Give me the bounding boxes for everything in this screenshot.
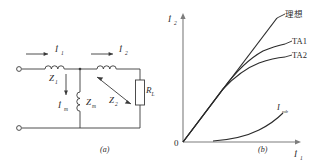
- panel-b-chart: İ 2 İ 1 0 理想 TA1 TA2 I mb: [155, 0, 310, 167]
- label-impedance-zm-sub: m: [92, 103, 96, 109]
- leader-line-ta2: [285, 55, 292, 57]
- pointer-arrow-z2-head-start: [97, 77, 103, 81]
- panel-a-circuit-diagram: İ 1 İ 2 İ m Z 1 Z m Z 2 R L: [0, 0, 155, 167]
- label-current-i2: İ: [118, 44, 123, 54]
- resistor-rl-body: [136, 80, 145, 105]
- node-junction: [79, 68, 82, 71]
- label-current-i1-sub: 1: [61, 50, 64, 56]
- chart-label-ideal: 理想: [285, 9, 303, 19]
- label-current-i2-sub: 2: [125, 50, 128, 56]
- inductor-z2-coil: [97, 66, 116, 69]
- chart-label-ta2: TA2: [292, 50, 307, 60]
- inductor-zm-coil: [77, 92, 80, 111]
- label-current-i1: İ: [54, 44, 59, 54]
- chart-y-axis-label-sub: 2: [174, 20, 177, 26]
- leader-line-ideal: [277, 14, 285, 18]
- current-arrow-i1-head: [44, 52, 48, 56]
- chart-x-axis-label-sub: 1: [300, 155, 303, 161]
- label-impedance-z1-sub: 1: [55, 79, 58, 85]
- current-arrow-i2-head: [109, 52, 113, 56]
- chart-y-axis-label: İ: [167, 14, 172, 24]
- label-current-im-sub: m: [64, 106, 68, 112]
- chart-label-imb-sub: mb: [282, 109, 289, 114]
- pointer-arrow-z2-head-end: [125, 100, 131, 104]
- terminal-input-top: [17, 67, 22, 72]
- chart-label-ta1: TA1: [292, 36, 307, 46]
- label-impedance-z2-sub: 2: [115, 101, 118, 107]
- label-load-rl-sub: L: [151, 91, 155, 97]
- panel-a-caption: (a): [100, 145, 109, 154]
- chart-y-axis-arrowhead: [180, 13, 185, 19]
- label-current-im: İ: [57, 100, 62, 110]
- leader-line-ta1: [285, 41, 292, 44]
- chart-x-axis-label: İ: [293, 149, 298, 159]
- current-arrow-im-head: [64, 91, 68, 95]
- chart-label-imb: I: [276, 102, 281, 112]
- chart-curve-ta2: [183, 57, 285, 142]
- chart-curve-ta1: [183, 44, 285, 142]
- inductor-z1-coil: [45, 66, 64, 69]
- panel-b-caption: (b): [258, 145, 267, 154]
- chart-curve-imb: [213, 113, 283, 141]
- chart-origin-label: 0: [174, 138, 179, 148]
- figure-container: İ 1 İ 2 İ m Z 1 Z m Z 2 R L: [0, 0, 310, 167]
- chart-x-axis-arrowhead: [295, 139, 301, 144]
- terminal-input-bottom: [17, 126, 22, 131]
